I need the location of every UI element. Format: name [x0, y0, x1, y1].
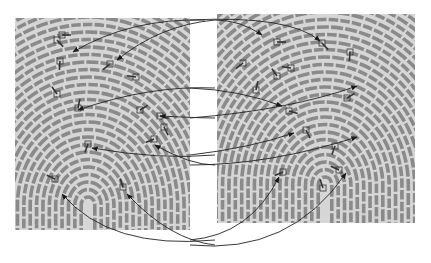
minutia-direction — [306, 130, 310, 138]
correspondence-arrows — [0, 0, 431, 263]
correspondence-arrow — [190, 133, 294, 155]
correspondence-arrow — [190, 86, 357, 118]
correspondence-arrow — [190, 173, 346, 246]
correspondence-arrow — [190, 137, 357, 165]
minutia-direction — [59, 61, 60, 70]
correspondence-arrow — [190, 177, 279, 240]
minutia-direction — [78, 99, 80, 108]
minutia-direction — [256, 81, 258, 90]
minutia-direction — [120, 178, 123, 187]
minutia-direction — [164, 127, 168, 135]
minutia-direction — [289, 111, 298, 113]
minutia-direction — [320, 179, 323, 188]
minutia-direction — [349, 52, 350, 61]
correspondence-arrow — [117, 20, 215, 60]
correspondence-arrow — [155, 145, 215, 165]
minutia-direction — [282, 67, 291, 68]
minutia-direction — [52, 87, 57, 94]
minutiae-markers — [47, 32, 355, 191]
correspondence-arrow — [190, 88, 282, 106]
correspondence-arrow — [190, 19, 320, 41]
arrow-layer — [62, 19, 357, 246]
minutia-direction — [140, 105, 148, 110]
minutia-direction — [127, 76, 136, 77]
correspondence-arrow — [215, 20, 262, 35]
correspondence-arrow — [62, 194, 215, 242]
minutia-direction — [272, 69, 277, 76]
minutia-direction — [347, 93, 355, 98]
correspondence-arrow — [92, 148, 215, 156]
